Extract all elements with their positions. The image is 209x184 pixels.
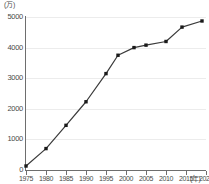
data-point-marker [164,40,167,43]
data-point-marker [24,164,27,167]
data-point-marker [200,19,203,22]
data-point-marker [132,46,135,49]
data-point-marker [64,124,67,127]
data-point-marker [144,43,147,46]
data-point-marker [84,100,87,103]
data-point-marker [116,54,119,57]
data-series [0,0,209,184]
line-chart: (万) 010002000300040005000 19751980198519… [0,0,209,184]
series-line [26,21,202,166]
data-point-marker [104,72,107,75]
data-point-marker [44,147,47,150]
data-point-marker [180,25,183,28]
